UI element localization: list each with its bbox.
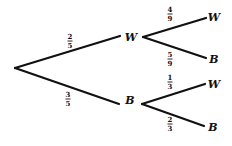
node-label-b-w: W <box>208 78 222 91</box>
node-label-w-w: W <box>208 11 222 24</box>
fraction-denominator: 3 <box>168 82 173 91</box>
probability-w-w: 4 9 <box>168 5 173 23</box>
fraction-denominator: 9 <box>168 14 173 23</box>
node-label-b-b: B <box>207 121 217 134</box>
fraction-denominator: 5 <box>66 99 71 108</box>
fraction-denominator: 5 <box>68 41 73 50</box>
edge-w-to-b <box>143 37 206 58</box>
probability-root-b: 3 5 <box>66 90 71 108</box>
probability-root-w: 2 5 <box>68 32 73 50</box>
node-label-w: W <box>125 31 139 44</box>
probability-w-b: 5 9 <box>168 50 173 68</box>
fraction-denominator: 9 <box>168 59 173 68</box>
fraction-denominator: 3 <box>168 124 173 133</box>
node-label-b: B <box>124 94 134 107</box>
probability-tree-diagram: W B W B W B 2 5 3 5 4 9 5 9 1 3 2 3 <box>0 0 232 146</box>
edge-w-to-w <box>143 18 206 37</box>
probability-b-w: 1 3 <box>168 73 173 91</box>
edge-b-to-b <box>142 104 204 126</box>
probability-b-b: 2 3 <box>168 115 173 133</box>
edge-b-to-w <box>142 84 205 104</box>
node-label-w-b: B <box>208 53 218 66</box>
